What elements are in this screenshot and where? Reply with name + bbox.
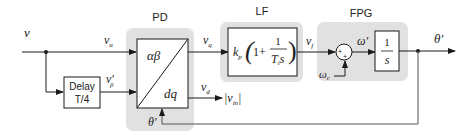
pll-block-diagram: PD LF FPG v vα Delay T/4 v′β αβ dq θ′ vq…: [0, 0, 474, 134]
sum-plus-bottom: +: [343, 53, 347, 60]
lf-paren-close: ): [288, 36, 297, 65]
int-den: s: [385, 53, 390, 67]
lf-title: LF: [256, 5, 269, 17]
delay-line1: Delay: [69, 81, 95, 92]
signal-v: v: [24, 25, 30, 40]
lf-one-plus: 1+: [253, 45, 266, 59]
sum-plus-top: +: [338, 48, 342, 55]
fpg-title: FPG: [350, 7, 373, 19]
signal-v-d: vd: [201, 80, 210, 96]
signal-v-f: vf: [306, 34, 314, 50]
pd-title: PD: [152, 11, 167, 23]
signal-v-in: |vin|: [224, 91, 241, 107]
signal-theta-out: θ′: [434, 31, 443, 46]
pd-alphabeta: αβ: [147, 48, 161, 63]
signal-omega-prime: ω′: [357, 34, 368, 48]
signal-v-q: vq: [203, 33, 212, 49]
signal-v-beta: v′β: [106, 72, 114, 89]
pd-dq: dq: [164, 86, 178, 101]
pd-theta: θ′: [148, 115, 157, 129]
int-num: 1: [384, 36, 390, 48]
lf-num: 1: [275, 35, 281, 47]
delay-line2: T/4: [75, 94, 90, 105]
signal-v-alpha: vα: [104, 33, 113, 49]
